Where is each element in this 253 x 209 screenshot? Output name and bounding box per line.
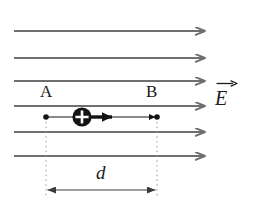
positive-charge-icon bbox=[72, 107, 91, 126]
electric-field-vector-label: E bbox=[215, 80, 238, 108]
distance-label-d: d bbox=[96, 163, 106, 182]
endpoint-dot-b bbox=[154, 114, 160, 120]
electric-field-figure: A B d E bbox=[0, 0, 253, 209]
endpoint-dot-a bbox=[43, 114, 49, 120]
point-label-a: A bbox=[40, 83, 52, 100]
field-symbol-e: E bbox=[215, 88, 238, 108]
vector-overbar-arrow-icon bbox=[216, 80, 238, 87]
point-label-b: B bbox=[146, 83, 157, 100]
